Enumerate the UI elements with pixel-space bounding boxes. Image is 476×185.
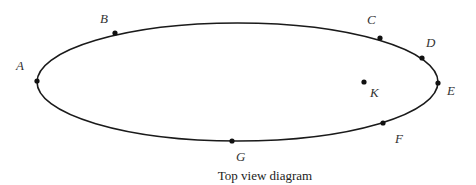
point-k-label: K xyxy=(369,85,380,100)
point-e-label: E xyxy=(446,83,455,98)
ellipse-path xyxy=(37,23,438,141)
point-k-marker xyxy=(361,79,366,84)
point-b-marker xyxy=(112,30,117,35)
point-g-label: G xyxy=(236,149,246,164)
point-e-marker xyxy=(435,80,440,85)
point-g-marker xyxy=(229,138,234,143)
point-a-label: A xyxy=(15,58,24,73)
point-c-label: C xyxy=(367,12,376,27)
point-a-marker xyxy=(34,78,39,83)
point-b-label: B xyxy=(100,11,108,26)
point-f-marker xyxy=(380,120,385,125)
diagram-caption: Top view diagram xyxy=(218,168,312,183)
point-c-marker xyxy=(377,35,382,40)
point-d-label: D xyxy=(425,35,436,50)
point-d-marker xyxy=(419,55,424,60)
point-f-label: F xyxy=(394,131,404,146)
top-view-diagram: ABCDEFGK Top view diagram xyxy=(0,0,476,185)
